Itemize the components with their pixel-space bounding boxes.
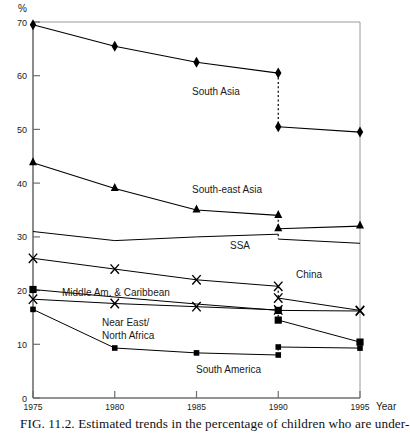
series-label-south-america: South America [196,364,261,375]
series-label-north-africa: North Africa [102,330,155,341]
series-label-middle-am-caribbean: Middle Am. & Caribbean [62,287,170,298]
ytick-label-20: 20 [17,286,27,296]
line-chart: 0 10 20 30 40 50 60 70 % 1975 1980 1985 … [0,0,410,439]
xtick-label-1995: 1995 [351,402,370,412]
xtick-label-1990: 1990 [269,402,288,412]
series-label-south-east-asia: South-east Asia [192,184,262,195]
ytick-label-60: 60 [17,71,27,81]
series-south-asia [30,19,363,137]
ytick-label-70: 70 [17,18,27,28]
figure-caption-text: Estimated trends in the percentage of ch… [78,416,409,431]
xtick-label-1985: 1985 [187,402,206,412]
ytick-label-40: 40 [17,179,27,189]
y-axis [33,22,40,398]
series-ssa [33,232,360,244]
figure-number: FIG. 11.2. [20,416,75,431]
ytick-label-10: 10 [17,340,27,350]
y-axis-title: % [18,3,27,14]
marker-group-south-america [30,307,363,358]
figure-container: 0 10 20 30 40 50 60 70 % 1975 1980 1985 … [0,0,410,439]
x-axis [33,391,360,398]
x-axis-title: Year [376,401,397,412]
figure-caption: FIG. 11.2. Estimated trends in the perce… [20,416,400,432]
series-south-america [30,307,363,358]
ytick-label-30: 30 [17,232,27,242]
series-label-near-east: Near East/ [102,317,149,328]
ytick-label-50: 50 [17,125,27,135]
series-label-ssa: SSA [230,240,250,251]
xtick-label-1975: 1975 [24,402,43,412]
series-label-south-asia: South Asia [192,86,240,97]
xtick-label-1980: 1980 [105,402,124,412]
series-label-china: China [296,269,323,280]
